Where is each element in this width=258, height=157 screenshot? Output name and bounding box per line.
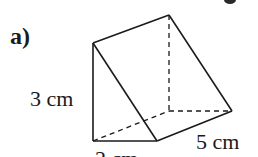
depth-label: 5 cm	[196, 131, 239, 153]
hidden-bottom-left-edge	[93, 111, 169, 141]
top-ridge-edge	[93, 15, 169, 43]
width-label: 2 cm	[95, 148, 138, 157]
back-slant-edge	[169, 15, 232, 111]
front-slant-edge	[93, 43, 157, 141]
height-label: 3 cm	[30, 88, 73, 110]
part-label: a)	[10, 24, 30, 48]
